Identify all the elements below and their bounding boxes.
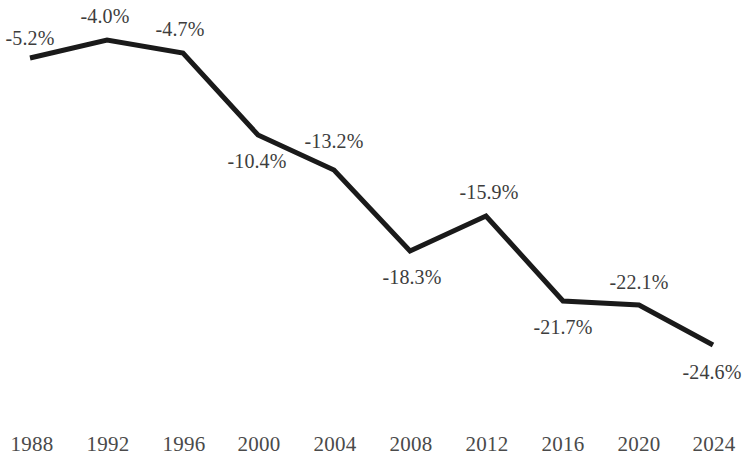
chart-plot-area bbox=[0, 0, 744, 464]
line-chart: -5.2%-4.0%-4.7%-10.4%-13.2%-18.3%-15.9%-… bbox=[0, 0, 744, 464]
data-series-line bbox=[30, 40, 713, 345]
